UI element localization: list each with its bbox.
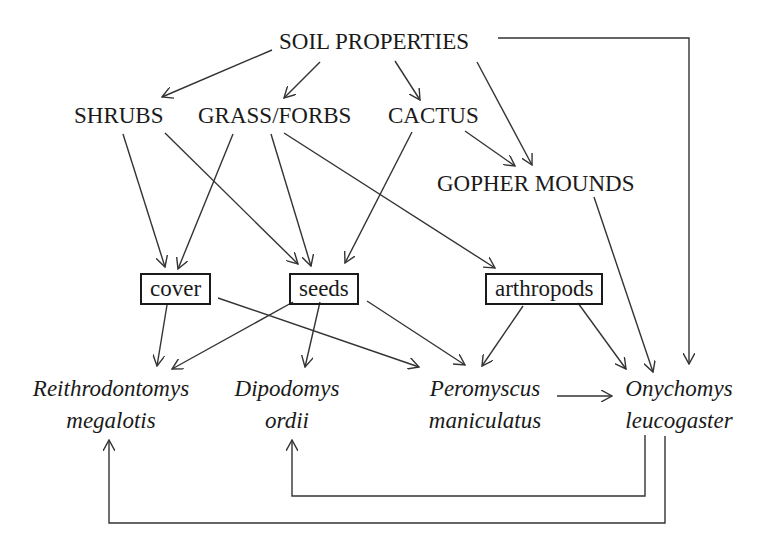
edge-shrubs-seeds: [165, 133, 298, 264]
edge-grass-arthropods: [284, 133, 495, 268]
node-arthropods: arthropods: [485, 273, 603, 305]
edge-soil-onycho: [498, 38, 689, 364]
species-genus: Onychomys: [614, 373, 744, 405]
edge-cactus-gopher: [465, 131, 515, 166]
species-genus: Dipodomys: [222, 373, 352, 405]
edge-shrubs-cover: [123, 134, 165, 267]
edge-soil-cactus: [395, 61, 420, 100]
node-gopher-mounds: GOPHER MOUNDS: [437, 172, 634, 195]
edge-arthropods-onycho: [578, 303, 626, 369]
edge-grass-seeds: [271, 134, 311, 266]
species-epithet: maniculatus: [420, 405, 550, 437]
edge-cactus-seeds: [345, 132, 412, 263]
edge-seeds-dipo: [305, 302, 320, 367]
edge-seeds-reithro: [172, 302, 293, 369]
edge-soil-gopher: [477, 62, 532, 165]
species-genus: Peromyscus: [420, 373, 550, 405]
node-reithrodontomys-megalotis: Reithrodontomys megalotis: [26, 373, 196, 437]
node-onychomys-leucogaster: Onychomys leucogaster: [614, 373, 744, 437]
edge-onycho-dipo: [292, 435, 645, 496]
species-genus: Reithrodontomys: [26, 373, 196, 405]
edge-arthropods-pero: [482, 306, 523, 366]
node-shrubs: SHRUBS: [74, 104, 163, 127]
diagram-canvas: SOIL PROPERTIES SHRUBS GRASS/FORBS CACTU…: [0, 0, 769, 546]
node-peromyscus-maniculatus: Peromyscus maniculatus: [420, 373, 550, 437]
node-cactus: CACTUS: [388, 104, 479, 127]
edge-cover-reithro: [157, 305, 167, 366]
node-dipodomys-ordii: Dipodomys ordii: [222, 373, 352, 437]
edge-soil-shrubs: [162, 50, 272, 97]
edge-seeds-pero: [367, 301, 465, 365]
species-epithet: leucogaster: [614, 405, 744, 437]
species-epithet: megalotis: [26, 405, 196, 437]
species-epithet: ordii: [222, 405, 352, 437]
node-seeds: seeds: [289, 273, 359, 305]
edge-onycho-reithro: [109, 436, 665, 523]
edges-layer: [0, 0, 769, 546]
node-soil-properties: SOIL PROPERTIES: [279, 30, 469, 53]
node-grass-forbs: GRASS/FORBS: [198, 104, 351, 127]
node-cover: cover: [140, 273, 211, 305]
edge-soil-grass: [284, 62, 320, 98]
